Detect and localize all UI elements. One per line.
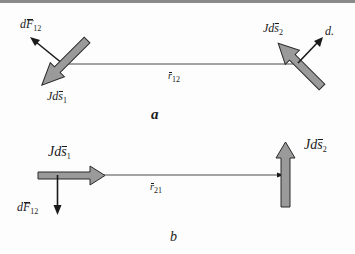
diagram-canvas: dF12 Jds1 r12 Jds2 d. a Jds1 dF12 r21 Jd… [0,0,355,254]
current-element-1-label-a: Jds1 [47,90,67,105]
r21-line [104,173,284,178]
current-element-1-arrow-b [38,166,105,185]
current-element-1-arrow-a [35,33,94,92]
force-arrow-a2 [298,37,323,63]
d-label: d. [325,25,334,37]
current-element-2-label-b: Jds2 [304,138,327,154]
force-label-b: dF12 [17,201,38,216]
diagram-graphics [0,0,355,254]
part-b-label: b [170,230,177,244]
current-element-1-label-b: Jds1 [48,145,71,161]
force-arrow-a [30,37,63,64]
force-arrow-b [54,175,62,215]
force-label-a: dF12 [20,18,41,33]
r12-label: r12 [168,71,180,84]
current-element-2-label-a: Jds2 [263,22,283,37]
r21-label: r21 [150,182,162,195]
part-a-label: a [151,107,159,122]
